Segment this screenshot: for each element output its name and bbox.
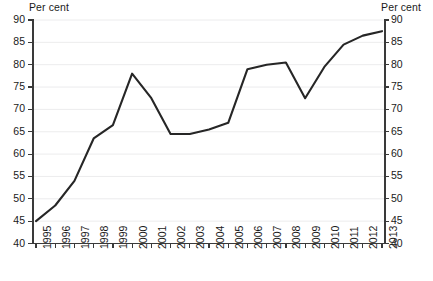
line-chart: Per cent Per cent 4045505560657075808590… (0, 0, 433, 281)
series-line (36, 31, 382, 221)
data-line-series (0, 0, 433, 281)
